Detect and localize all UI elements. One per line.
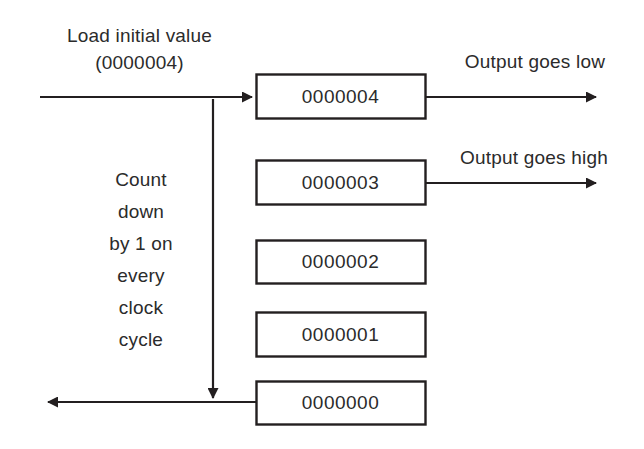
load-initial-value-line1: Load initial value: [67, 25, 212, 46]
load-initial-value-line2: (0000004): [95, 52, 183, 73]
count-line-5: clock: [119, 297, 163, 318]
load-initial-value-label: Load initial value(0000004): [27, 22, 252, 76]
count-line-3: by 1 on: [109, 233, 173, 254]
state-value-2: 0000002: [256, 251, 425, 273]
output-goes-low-label: Output goes low: [440, 49, 630, 74]
state-value-1: 0000003: [256, 172, 425, 194]
count-down-description: Countdownby 1 oneveryclockcycle: [86, 164, 196, 356]
state-value-3: 0000001: [256, 324, 425, 346]
output-goes-high-label: Output goes high: [434, 145, 634, 170]
count-line-4: every: [117, 265, 164, 286]
count-line-2: down: [118, 201, 164, 222]
counter-state-diagram: Load initial value(0000004) Output goes …: [0, 0, 644, 449]
state-value-4: 0000000: [256, 392, 425, 414]
count-line-6: cycle: [119, 329, 163, 350]
count-line-1: Count: [115, 169, 167, 190]
state-value-0: 0000004: [256, 86, 425, 108]
